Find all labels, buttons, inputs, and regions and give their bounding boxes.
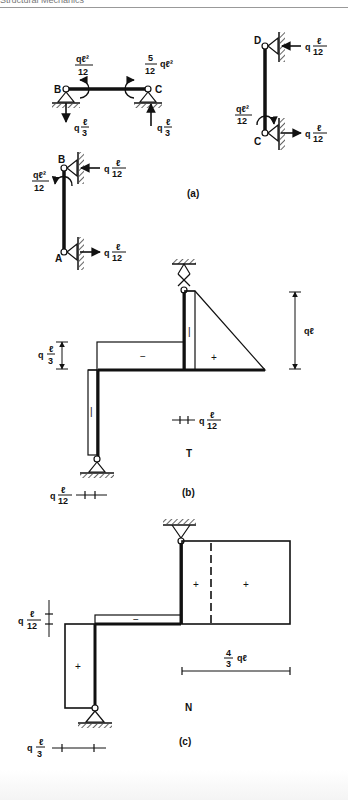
force-d-num: ℓ xyxy=(317,36,322,46)
n-sign-rect-b: + xyxy=(243,579,249,590)
node-c2-label: C xyxy=(254,136,261,147)
c-dim-width-den: 3 xyxy=(226,659,231,669)
moment-c2-den: 12 xyxy=(237,116,247,126)
force-d-q: q xyxy=(305,42,311,52)
node-d-label: D xyxy=(254,35,261,46)
force-d-den: 12 xyxy=(313,47,323,57)
moment-b2-den: 12 xyxy=(34,183,44,193)
reaction-c-num: ℓ xyxy=(166,117,171,127)
b-dim-beam-q: q xyxy=(38,350,44,360)
caption-a: (a) xyxy=(187,188,199,199)
reaction-b-q: q xyxy=(74,123,80,133)
moment-c-tail: qℓ² xyxy=(160,59,173,69)
force-a-num: ℓ xyxy=(116,242,121,252)
structural-figure: B C qℓ² 12 5 12 qℓ² q ℓ 3 q ℓ 3 xyxy=(0,0,348,800)
moment-c-coef-den: 12 xyxy=(145,66,155,76)
reaction-c-den: 3 xyxy=(165,128,170,138)
n-sign-beam: − xyxy=(133,614,139,625)
force-b-num: ℓ xyxy=(116,158,121,168)
moment-b-num: qℓ² xyxy=(76,54,89,64)
caption-b: (b) xyxy=(182,487,195,498)
c-dim-width-num: 4 xyxy=(226,648,231,658)
b-diagram-label: T xyxy=(186,448,192,459)
b-scale-left-q: q xyxy=(50,491,56,501)
moment-c2-num: qℓ² xyxy=(236,104,249,114)
node-c-label: C xyxy=(155,84,162,95)
figure-b: − | + | q ℓ 3 qℓ q ℓ xyxy=(38,259,314,506)
node-b-label: B xyxy=(54,84,61,95)
caption-c: (c) xyxy=(179,736,191,747)
c-scale-num: ℓ xyxy=(39,737,44,747)
force-b-den: 12 xyxy=(112,169,122,179)
c-diagram-label: N xyxy=(185,702,192,713)
page-bottom-fade xyxy=(0,770,348,800)
t-sign-col-left: | xyxy=(90,406,93,417)
force-a-q: q xyxy=(104,248,110,258)
reaction-b-den: 3 xyxy=(82,128,87,138)
figure-a: B C qℓ² 12 5 12 qℓ² q ℓ 3 q ℓ 3 xyxy=(32,32,327,270)
c-scale-q: q xyxy=(27,743,33,753)
n-sign-rect-a: + xyxy=(193,579,199,590)
c-scale-den: 3 xyxy=(37,749,42,759)
reaction-b-num: ℓ xyxy=(83,117,88,127)
force-c-num: ℓ xyxy=(317,123,322,133)
moment-b2-num: qℓ² xyxy=(33,170,46,180)
moment-c-coef-num: 5 xyxy=(148,53,153,63)
figure-c: + + − + q ℓ 12 4 3 qℓ N q ℓ 3 xyxy=(18,519,290,759)
b-scale-right-den: 12 xyxy=(207,421,217,431)
b-scale-left-num: ℓ xyxy=(61,485,66,495)
n-sign-col-left: + xyxy=(75,661,81,672)
node-b2-label: B xyxy=(58,154,65,165)
b-dim-beam-num: ℓ xyxy=(49,344,54,354)
c-dim-beam-num: ℓ xyxy=(30,609,35,619)
c-dim-beam-den: 12 xyxy=(27,621,37,631)
force-b-q: q xyxy=(104,164,110,174)
b-scale-right-num: ℓ xyxy=(210,410,215,420)
beam-bc: B C qℓ² 12 5 12 qℓ² q ℓ 3 q ℓ 3 xyxy=(52,53,173,138)
column-dc: D C q ℓ 12 q ℓ 12 qℓ² 12 xyxy=(235,32,327,150)
reaction-c-q: q xyxy=(157,123,163,133)
b-scale-left-den: 12 xyxy=(58,496,68,506)
force-c-q: q xyxy=(305,129,311,139)
force-c-den: 12 xyxy=(313,134,323,144)
b-dim-height: qℓ xyxy=(304,326,314,336)
t-sign-triangle: + xyxy=(211,352,217,363)
t-sign-col-right: | xyxy=(188,326,191,337)
moment-b-den: 12 xyxy=(78,67,88,77)
c-dim-width-tail: qℓ xyxy=(237,653,247,663)
b-scale-right-q: q xyxy=(199,416,205,426)
column-ab: B A q ℓ 12 q ℓ 12 qℓ² 12 xyxy=(32,152,126,270)
node-a-label: A xyxy=(55,253,62,264)
t-triangle-region xyxy=(195,291,265,370)
c-dim-beam-q: q xyxy=(18,616,24,626)
force-a-den: 12 xyxy=(112,253,122,263)
t-sign-beam: − xyxy=(140,351,146,362)
b-dim-beam-den: 3 xyxy=(48,356,53,366)
